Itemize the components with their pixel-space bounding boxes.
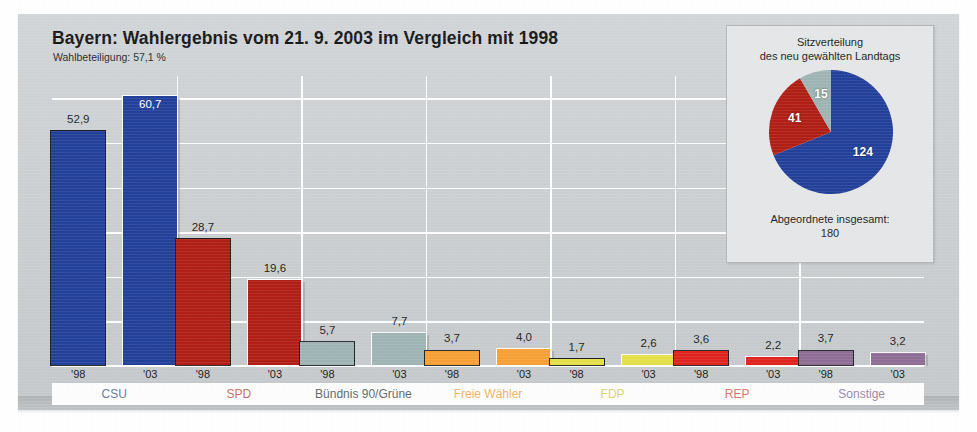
party-label-b-ndnis-90-gr-ne: Bündnis 90/Grüne [301, 387, 426, 401]
bar-value-label: 60,7 [122, 98, 178, 110]
bar-value-label: 2,2 [745, 339, 801, 351]
party-label-rep: REP [675, 387, 800, 401]
bar-b-ndnis-90-gr-ne-98 [299, 341, 355, 366]
bar-value-label: 5,7 [299, 324, 355, 336]
bar-freie-w-hler-98 [424, 350, 480, 367]
bar-value-label: 2,6 [621, 337, 677, 349]
bar-fdp-98 [549, 358, 605, 366]
year-tick-label: '98 [549, 368, 605, 380]
pie-value-label: 15 [809, 87, 833, 101]
pie-value-label: 124 [851, 145, 875, 159]
party-label-spd: SPD [177, 387, 302, 401]
inset-caption: Abgeordnete insgesamt: 180 [727, 212, 933, 240]
party-label-freie-w-hler: Freie Wähler [426, 387, 551, 401]
bar-value-label: 52,9 [50, 113, 106, 125]
bar-spd-03 [247, 279, 303, 366]
year-tick-label: '03 [745, 368, 801, 380]
year-tick-label: '98 [175, 368, 231, 380]
year-tick-label: '03 [496, 368, 552, 380]
bar-value-label: 3,6 [673, 333, 729, 345]
bar-csu-98 [50, 130, 106, 366]
pie-chart: 1244115 [769, 70, 893, 194]
page-title: Bayern: Wahlergebnis vom 21. 9. 2003 im … [52, 28, 558, 49]
party-label-fdp: FDP [550, 387, 675, 401]
year-tick-label: '03 [371, 368, 427, 380]
year-tick-label: '03 [870, 368, 926, 380]
bar-sonstige-03 [870, 352, 926, 366]
inset-caption-line2: 180 [821, 227, 839, 239]
bar-freie-w-hler-03 [496, 348, 552, 366]
year-tick-label: '98 [798, 368, 854, 380]
year-tick-label: '03 [621, 368, 677, 380]
bar-value-label: 3,7 [798, 332, 854, 344]
party-label-band: CSUSPDBündnis 90/GrüneFreie WählerFDPREP… [52, 383, 924, 405]
year-tick-label: '98 [673, 368, 729, 380]
inset-title: Sitzverteilung des neu gewählten Landtag… [727, 35, 933, 63]
gridline-vertical [675, 76, 677, 366]
turnout-subtitle: Wahlbeteiligung: 57,1 % [53, 51, 166, 63]
bar-b-ndnis-90-gr-ne-03 [371, 332, 427, 366]
party-label-csu: CSU [52, 387, 177, 401]
inset-title-line1: Sitzverteilung [797, 36, 863, 48]
pie-value-label: 41 [783, 111, 807, 125]
year-tick-label: '98 [50, 368, 106, 380]
bar-value-label: 4,0 [496, 331, 552, 343]
bar-value-label: 3,7 [424, 332, 480, 344]
inset-title-line2: des neu gewählten Landtags [760, 50, 901, 62]
election-results-infographic: Bayern: Wahlergebnis vom 21. 9. 2003 im … [0, 0, 977, 432]
gridline-vertical [301, 76, 303, 366]
year-tick-label: '98 [299, 368, 355, 380]
bar-value-label: 7,7 [371, 315, 427, 327]
bar-csu-03 [122, 95, 178, 366]
gridline-vertical [426, 76, 428, 366]
seat-distribution-inset: Sitzverteilung des neu gewählten Landtag… [726, 25, 934, 263]
bar-fdp-03 [621, 354, 677, 366]
bar-sonstige-98 [798, 350, 854, 367]
gridline-vertical [550, 76, 552, 366]
bar-spd-98 [175, 238, 231, 366]
year-tick-label: '03 [247, 368, 303, 380]
bar-value-label: 1,7 [549, 341, 605, 353]
bar-rep-98 [673, 350, 729, 366]
bar-value-label: 28,7 [175, 221, 231, 233]
inset-caption-line1: Abgeordnete insgesamt: [770, 213, 889, 225]
bar-rep-03 [745, 356, 801, 366]
year-tick-label: '03 [122, 368, 178, 380]
bar-value-label: 3,2 [870, 335, 926, 347]
bar-value-label: 19,6 [247, 262, 303, 274]
party-label-sonstige: Sonstige [799, 387, 924, 401]
year-tick-label: '98 [424, 368, 480, 380]
